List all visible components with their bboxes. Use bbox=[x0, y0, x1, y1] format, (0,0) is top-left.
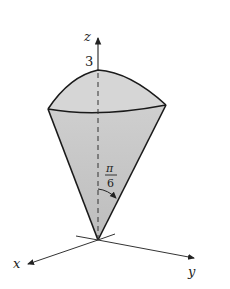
x-axis bbox=[28, 240, 98, 264]
y-axis-label: y bbox=[187, 264, 196, 279]
x-axis-back bbox=[76, 236, 98, 240]
angle-denominator: 6 bbox=[107, 177, 114, 190]
x-axis-label: x bbox=[13, 256, 21, 271]
z-value-label: 3 bbox=[85, 54, 93, 69]
angle-numerator: π bbox=[105, 162, 114, 175]
cone-diagram: z 3 x y π 6 bbox=[0, 0, 230, 289]
z-axis-label: z bbox=[83, 29, 91, 44]
y-axis bbox=[98, 240, 194, 258]
